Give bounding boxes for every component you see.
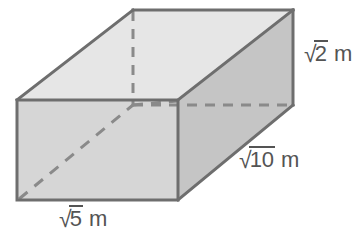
radicand-width: 5 [69,205,83,230]
radicand-height: 2 [314,40,328,65]
front-face [17,100,178,200]
unit-depth: m [281,147,299,172]
unit-height: m [334,41,352,66]
unit-width: m [89,206,107,231]
sqrt-icon-width: √5 [58,205,83,231]
height-dimension-label: √2m [303,40,352,66]
prism-figure: √2m √10m √5m [0,0,362,246]
width-dimension-label: √5m [58,205,107,231]
depth-dimension-label: √10m [238,146,299,172]
sqrt-icon-height: √2 [303,40,328,66]
prism-drawing [0,0,362,246]
radicand-depth: 10 [249,146,275,171]
sqrt-icon-depth: √10 [238,146,275,172]
